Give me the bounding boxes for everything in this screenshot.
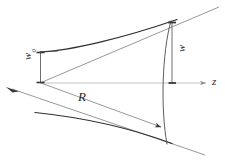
lower-asymptote-arrowhead [6,87,19,93]
lower-beam-envelope-curve [35,113,172,144]
beam-radius-label: w [176,45,187,52]
radius-of-curvature-label: R [78,90,86,103]
gaussian-beam-figure: w0 w R z [0,0,225,160]
propagation-axis-label: z [212,76,216,87]
lower-asymptote-line [12,89,205,155]
waist-label: w0 [22,49,36,60]
upper-asymptote-line [40,7,219,83]
beam-diagram-svg [0,0,225,160]
upper-beam-envelope-curve [40,20,177,53]
